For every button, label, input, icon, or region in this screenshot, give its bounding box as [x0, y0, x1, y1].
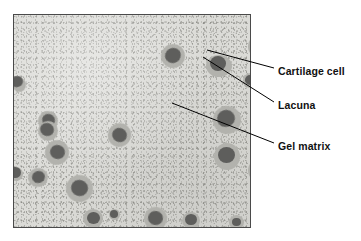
cartilage-figure: Cartilage cell Lacuna Gel matrix [0, 0, 361, 241]
label-gel-matrix: Gel matrix [278, 140, 330, 152]
chondrocyte-body [110, 210, 118, 218]
chondrocyte-body [245, 75, 251, 85]
micrograph-panel [13, 14, 251, 228]
label-cartilage-cell: Cartilage cell [278, 65, 345, 77]
chondrocyte-body [232, 218, 241, 227]
label-lacuna: Lacuna [278, 99, 315, 111]
chondrocyte-body [218, 147, 235, 163]
